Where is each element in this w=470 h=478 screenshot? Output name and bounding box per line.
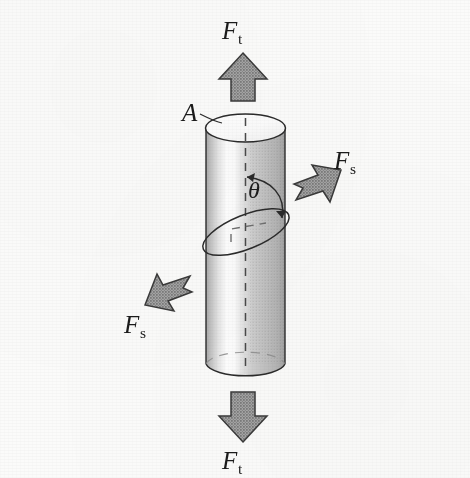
label-tensile-force-top: Ft: [222, 18, 242, 43]
label-tensile-force-top-subscript: t: [238, 30, 243, 47]
diagram-canvas: [0, 0, 470, 478]
label-angle-theta: θ: [248, 178, 260, 202]
label-shear-force-left-symbol: F: [124, 311, 139, 338]
label-shear-force-left-subscript: s: [140, 324, 146, 341]
label-shear-force-right-symbol: F: [334, 147, 349, 174]
label-cross-section-area: A: [182, 100, 197, 125]
label-shear-force-right-subscript: s: [350, 160, 356, 177]
physics-diagram-figure: Ft Ft Fs Fs A θ: [0, 0, 470, 478]
tensile-force-arrow-down: [219, 392, 267, 442]
label-tensile-force-bottom-subscript: t: [238, 460, 243, 477]
label-shear-force-right: Fs: [334, 148, 356, 173]
tensile-force-arrow-up: [219, 53, 267, 101]
shear-force-arrow-left: [145, 274, 192, 311]
label-tensile-force-top-symbol: F: [222, 17, 237, 44]
label-tensile-force-bottom: Ft: [222, 448, 242, 473]
label-shear-force-left: Fs: [124, 312, 146, 337]
label-tensile-force-bottom-symbol: F: [222, 447, 237, 474]
